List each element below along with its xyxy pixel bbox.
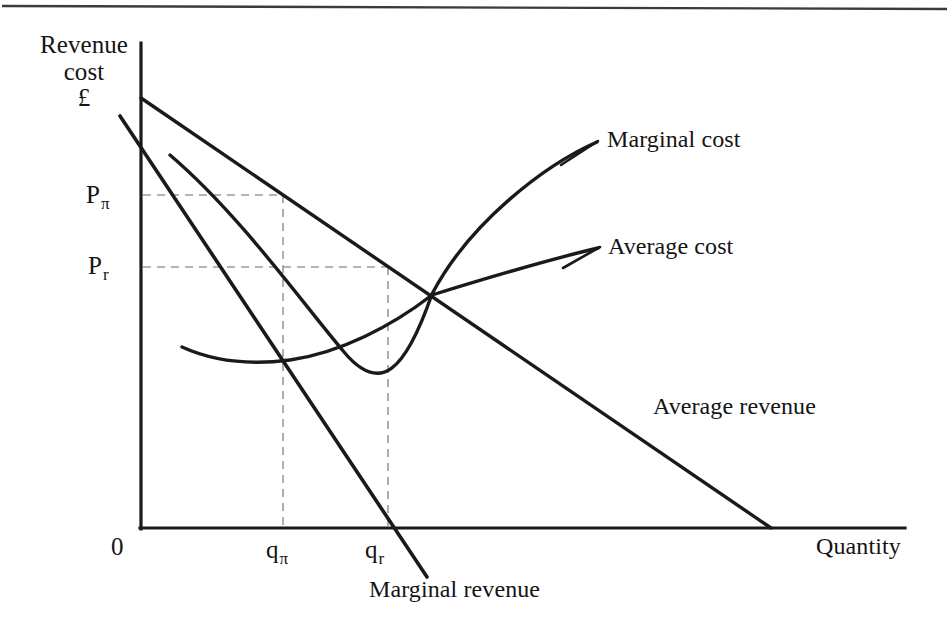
quantity-regulated-subscript: r <box>379 549 385 568</box>
marginal-cost-label: Marginal cost <box>607 127 741 152</box>
x-axis-label: Quantity <box>816 534 901 559</box>
leader-line-marginal-cost <box>561 141 598 165</box>
quantity-profit-subscript: π <box>280 549 289 568</box>
marginal-revenue-curve <box>120 116 427 577</box>
economics-diagram-svg <box>0 0 949 634</box>
price-profit-subscript: π <box>101 194 110 213</box>
price-regulated-base: P <box>88 252 102 279</box>
figure-canvas: Revenue cost £ Pπ Pr 0 qπ qr Marginal co… <box>0 0 949 634</box>
price-regulated-subscript: r <box>103 265 109 284</box>
quantity-profit-base: q <box>266 536 279 563</box>
price-regulated-label: Pr <box>88 253 108 280</box>
quantity-profit-label: qπ <box>266 537 287 564</box>
marginal-revenue-label: Marginal revenue <box>369 577 540 602</box>
quantity-regulated-base: q <box>365 536 378 563</box>
y-axis-label-line-1: Revenue <box>30 32 138 59</box>
average-revenue-curve <box>141 98 771 528</box>
marginal-cost-curve <box>170 142 597 373</box>
y-axis-label-line-2: cost <box>30 59 138 86</box>
average-revenue-label: Average revenue <box>653 394 816 419</box>
y-axis-label: Revenue cost £ <box>30 32 138 112</box>
origin-label: 0 <box>111 534 124 561</box>
leader-line-average-cost <box>563 247 600 268</box>
page-top-rule <box>2 6 947 9</box>
average-cost-label: Average cost <box>608 234 733 259</box>
y-axis-label-currency: £ <box>30 85 138 112</box>
price-profit-base: P <box>86 181 100 208</box>
quantity-regulated-label: qr <box>365 537 383 564</box>
price-profit-label: Pπ <box>86 182 109 209</box>
